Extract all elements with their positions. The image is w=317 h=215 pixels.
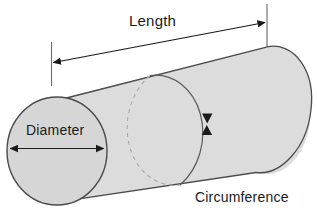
cylinder-diagram: Length Diameter Circumference (0, 0, 317, 215)
cylinder-left-end-face (7, 97, 107, 205)
cylinder-illustration (0, 0, 317, 215)
length-label: Length (129, 12, 176, 29)
circumference-label: Circumference (195, 189, 289, 205)
diameter-label: Diameter (26, 122, 84, 138)
cylinder-left-end-face-group (7, 97, 107, 205)
